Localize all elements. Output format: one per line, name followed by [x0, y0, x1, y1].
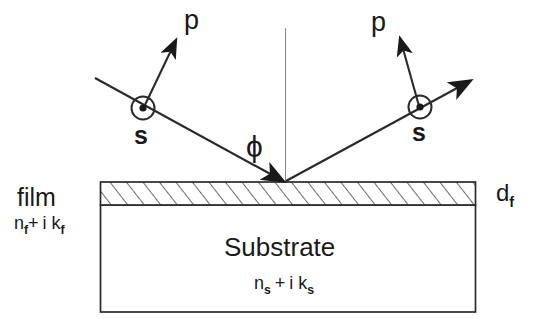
- film-thickness-symbol: d: [496, 179, 509, 206]
- incident-s-dot-icon: [139, 104, 146, 111]
- film-k-subscript: f: [61, 223, 65, 237]
- figure-canvas: p s p s ϕ film nf+i kf Substrate ns+i ks…: [0, 0, 544, 332]
- film-thickness-label: df: [496, 181, 514, 209]
- reflected-s-label: s: [412, 120, 426, 145]
- substrate-n-symbol: n: [254, 273, 264, 293]
- substrate-k-subscript: s: [307, 283, 314, 297]
- incident-p-label: p: [184, 7, 199, 34]
- substrate-k-symbol: i k: [289, 273, 307, 293]
- film-name-label: film: [17, 185, 56, 210]
- incident-s-label: s: [134, 123, 148, 148]
- substrate-name-label: Substrate: [224, 234, 335, 260]
- substrate-refractive-index-label: ns+i ks: [254, 274, 314, 296]
- substrate-plus-symbol: +: [275, 273, 286, 293]
- reflected-s-dot-icon: [416, 103, 423, 110]
- substrate-n-subscript: s: [264, 283, 271, 297]
- film-layer-box: [101, 182, 476, 205]
- film-refractive-index-label: nf+i kf: [14, 214, 65, 236]
- reflected-ray-line: [286, 81, 470, 181]
- film-thickness-subscript: f: [509, 194, 514, 210]
- film-k-symbol: i k: [43, 213, 61, 233]
- incidence-angle-label: ϕ: [246, 132, 263, 162]
- reflected-p-label: p: [371, 9, 386, 36]
- film-plus-symbol: +: [28, 213, 39, 233]
- film-n-symbol: n: [14, 213, 24, 233]
